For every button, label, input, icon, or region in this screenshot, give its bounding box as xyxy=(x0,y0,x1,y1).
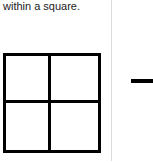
quartered-square xyxy=(3,53,101,153)
caption-text: within a square. xyxy=(3,0,80,13)
panel-divider xyxy=(111,0,112,161)
square-horizontal-divider xyxy=(3,100,101,103)
minus-dash-icon xyxy=(131,79,153,83)
square-vertical-divider xyxy=(48,53,51,153)
